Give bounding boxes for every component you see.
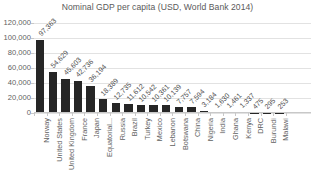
plot-area: 97,36354,62945,60342,73636,19418,38912,7…: [34, 23, 311, 113]
x-axis-tick-mark: [59, 113, 60, 116]
y-axis-tick-label: 40,000: [8, 79, 31, 87]
x-axis-tick-mark: [110, 113, 111, 116]
x-axis-category-label: Russia: [119, 118, 126, 140]
bar-group: 253: [273, 23, 286, 113]
bar-group: 45,603: [59, 23, 72, 113]
x-axis-category-label: DRC: [257, 118, 264, 134]
bar-value-label: 253: [277, 98, 290, 111]
bar-group: 295: [261, 23, 274, 113]
x-axis-tick-mark: [210, 113, 211, 116]
y-axis-tick-label: 100,000: [4, 34, 31, 42]
x-axis-category-label: Brazil: [131, 118, 138, 136]
x-axis-tick-mark: [261, 113, 262, 116]
x-axis-category-label: Japan: [93, 118, 100, 138]
bar-group: 1,630: [210, 23, 223, 113]
x-axis-tick-mark: [198, 113, 199, 116]
bar-group: 475: [248, 23, 261, 113]
bar-group: 12,735: [110, 23, 123, 113]
x-axis-category-label: Lebanon: [169, 118, 176, 146]
bar-group: 18,389: [97, 23, 110, 113]
x-axis-tick-mark: [72, 113, 73, 116]
chart-container: Nominal GDP per capita (USD, World Bank …: [0, 0, 315, 188]
x-axis-tick-mark: [47, 113, 48, 116]
x-axis-tick-mark: [34, 113, 35, 116]
x-axis-tick-mark: [97, 113, 98, 116]
x-axis-tick-mark: [273, 113, 274, 116]
x-axis-category-label: Turkey: [144, 118, 151, 140]
y-axis: 120,000100,00080,00060,00040,00020,0000: [0, 23, 31, 113]
x-axis-tick-mark: [84, 113, 85, 116]
bar[interactable]: [61, 79, 69, 113]
bar[interactable]: [36, 40, 44, 113]
bar[interactable]: [74, 81, 82, 113]
y-axis-tick-label: 20,000: [8, 94, 31, 102]
y-axis-tick-label: 120,000: [4, 19, 31, 27]
x-axis-category-label: United States: [56, 118, 63, 162]
bar[interactable]: [99, 99, 107, 113]
x-axis-category-label: Kenya: [245, 118, 252, 139]
x-axis-tick-mark: [235, 113, 236, 116]
bar-group: 10,361: [147, 23, 160, 113]
chart-title: Nominal GDP per capita (USD, World Bank …: [0, 2, 315, 12]
bar[interactable]: [86, 86, 94, 113]
bar-group: 3,184: [198, 23, 211, 113]
x-axis-category-label: United Kingdom: [68, 118, 75, 170]
x-axis-category-label: China: [194, 118, 201, 137]
bar-group: 7,757: [172, 23, 185, 113]
x-axis-tick-mark: [223, 113, 224, 116]
x-axis-tick-mark: [135, 113, 136, 116]
x-axis-category-label: Norway: [43, 118, 50, 143]
x-axis-category-label: Botswana: [182, 118, 189, 150]
x-axis-tick-mark: [185, 113, 186, 116]
x-axis-category-label: Nigeria: [207, 118, 214, 141]
bar-group: 36,194: [84, 23, 97, 113]
bar[interactable]: [49, 72, 57, 113]
bar-group: 10,139: [160, 23, 173, 113]
bar-group: 11,612: [122, 23, 135, 113]
x-axis-category-label: India: [219, 118, 226, 134]
bar-group: 10,542: [135, 23, 148, 113]
y-axis-tick-label: 60,000: [8, 64, 31, 72]
y-axis-tick-label: 80,000: [8, 49, 31, 57]
x-axis-tick-mark: [248, 113, 249, 116]
bar-group: 54,629: [47, 23, 60, 113]
x-axis-tick-mark: [172, 113, 173, 116]
x-axis-tick-mark: [122, 113, 123, 116]
x-axis-tick-mark: [286, 113, 287, 116]
x-axis-category-label: Burundi: [270, 118, 277, 143]
x-axis-category-label: Equatorial...: [106, 118, 113, 157]
x-axis-category-label: Ghana: [232, 118, 239, 140]
bar-group: 1,337: [235, 23, 248, 113]
x-axis-category-label: Malawi: [282, 118, 289, 141]
bar-group: 42,736: [72, 23, 85, 113]
bar-group: 1,461: [223, 23, 236, 113]
x-axis-category-label: Mexico: [156, 118, 163, 141]
x-axis-tick-mark: [160, 113, 161, 116]
bar-group: 97,363: [34, 23, 47, 113]
x-axis-tick-mark: [147, 113, 148, 116]
bar-group: 7,594: [185, 23, 198, 113]
x-axis-category-label: France: [81, 118, 88, 141]
